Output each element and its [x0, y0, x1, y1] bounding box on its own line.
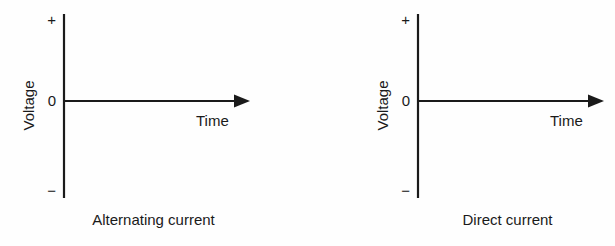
- panel-caption-alternating-current: Alternating current: [0, 212, 307, 227]
- y-axis-tick-positive: +: [28, 12, 56, 27]
- axes-drawing-alternating-current: [0, 0, 307, 246]
- y-axis-tick-negative: −: [28, 183, 56, 198]
- y-axis-title: Voltage: [21, 58, 36, 154]
- y-axis-tick-negative: −: [382, 183, 410, 198]
- figure-root: + 0 − Voltage Time Alternating current +…: [0, 0, 615, 246]
- x-axis-title: Time: [196, 113, 229, 128]
- panel-caption-direct-current: Direct current: [354, 212, 615, 227]
- x-axis-arrowhead-icon: [588, 95, 604, 108]
- y-axis-title: Voltage: [375, 58, 390, 154]
- y-axis-tick-positive: +: [382, 12, 410, 27]
- x-axis-title: Time: [550, 113, 583, 128]
- x-axis-arrowhead-icon: [234, 95, 250, 108]
- chart-panel-alternating-current: + 0 − Voltage Time Alternating current: [0, 0, 307, 246]
- chart-panel-direct-current: + 0 − Voltage Time Direct current: [354, 0, 615, 246]
